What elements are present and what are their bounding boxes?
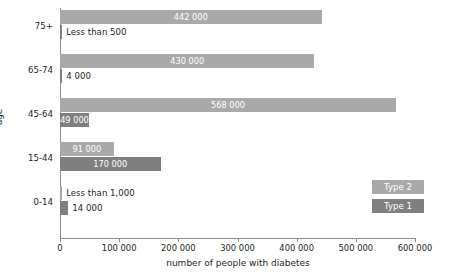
x-tick-label: 300 000 — [220, 243, 255, 253]
x-tick-mark — [415, 238, 416, 242]
y-tick-label-75+: 75+ — [0, 21, 53, 31]
bar-value-label: 442 000 — [60, 10, 322, 24]
chart-legend: Type 2Type 1 — [372, 180, 424, 218]
y-tick-label-65-74: 65-74 — [0, 65, 53, 75]
x-tick-label: 500 000 — [339, 243, 374, 253]
bar-value-label: Less than 500 — [66, 25, 126, 39]
x-tick-mark — [356, 238, 357, 242]
x-tick-mark — [297, 238, 298, 242]
x-tick-label: 100 000 — [102, 243, 137, 253]
x-tick-mark — [238, 238, 239, 242]
bar-value-label: 4 000 — [66, 69, 91, 83]
bar-65-74-type1 — [60, 69, 62, 83]
bar-value-label: Less than 1,000 — [66, 186, 134, 200]
y-tick-label-15-44: 15-44 — [0, 153, 53, 163]
x-axis-title: number of people with diabetes — [60, 258, 416, 268]
x-tick-label: 400 000 — [279, 243, 314, 253]
bar-value-label: 568 000 — [60, 98, 396, 112]
bar-75+-type1 — [60, 25, 62, 39]
x-tick-mark — [60, 238, 61, 242]
bar-value-label: 91 000 — [60, 142, 114, 156]
bar-value-label: 170 000 — [60, 157, 161, 171]
x-tick-label: 200 000 — [161, 243, 196, 253]
bar-0-14-type2 — [60, 186, 62, 200]
x-tick-label: 0 — [57, 243, 62, 253]
bar-0-14-type1 — [60, 201, 68, 215]
bar-value-label: 49 000 — [60, 113, 89, 127]
x-tick-label: 600 000 — [398, 243, 433, 253]
legend-item-type-1[interactable]: Type 1 — [372, 199, 424, 213]
legend-item-type-2[interactable]: Type 2 — [372, 180, 424, 194]
x-tick-mark — [119, 238, 120, 242]
x-tick-mark — [178, 238, 179, 242]
bar-chart: age number of people with diabetes 0100 … — [0, 0, 457, 276]
legend-label: Type 1 — [372, 199, 424, 213]
y-tick-label-0-14: 0-14 — [0, 197, 53, 207]
y-tick-label-45-64: 45-64 — [0, 109, 53, 119]
legend-label: Type 2 — [372, 180, 424, 194]
bar-value-label: 430 000 — [60, 54, 314, 68]
bar-value-label: 14 000 — [72, 201, 102, 215]
